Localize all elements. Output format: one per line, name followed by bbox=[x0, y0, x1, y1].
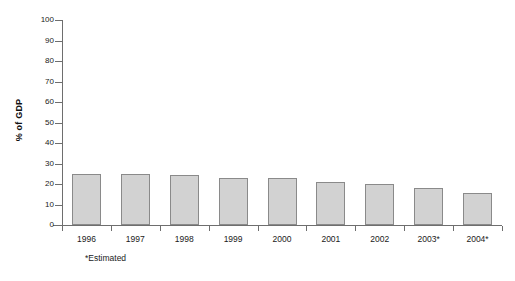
bar-chart: % of GDP 1009080706050403020100 19961997… bbox=[0, 0, 515, 281]
bar bbox=[219, 178, 248, 225]
y-axis-tick-label: 50 bbox=[14, 119, 54, 127]
bar bbox=[414, 188, 443, 225]
y-axis-tick bbox=[55, 205, 62, 206]
x-axis-tick bbox=[160, 226, 161, 231]
y-axis-tick bbox=[55, 164, 62, 165]
bar bbox=[268, 178, 297, 225]
x-axis-tick bbox=[209, 226, 210, 231]
bar bbox=[72, 174, 101, 225]
x-axis-tick bbox=[355, 226, 356, 231]
x-axis-tick bbox=[453, 226, 454, 231]
y-axis-tick-label: 80 bbox=[14, 57, 54, 65]
y-axis-tick-labels: 1009080706050403020100 bbox=[10, 20, 54, 225]
y-axis-tick bbox=[55, 82, 62, 83]
y-axis-line bbox=[62, 20, 63, 225]
x-axis-category-label: 2001 bbox=[306, 234, 355, 244]
bar bbox=[316, 182, 345, 225]
y-axis-tick-label: 20 bbox=[14, 180, 54, 188]
y-axis-tick bbox=[55, 123, 62, 124]
x-axis-category-label: 1997 bbox=[111, 234, 160, 244]
chart-footnote: *Estimated bbox=[85, 253, 126, 263]
x-axis-category-label: 2004* bbox=[453, 234, 502, 244]
x-axis-category-label: 1996 bbox=[62, 234, 111, 244]
bar bbox=[121, 174, 150, 225]
y-axis-tick bbox=[55, 102, 62, 103]
plot-area: 1009080706050403020100 19961997199819992… bbox=[62, 20, 502, 225]
y-axis-tick bbox=[55, 41, 62, 42]
x-axis-category-label: 1999 bbox=[209, 234, 258, 244]
y-axis-tick-label: 70 bbox=[14, 78, 54, 86]
x-axis-tick bbox=[306, 226, 307, 231]
x-axis-category-label: 2003* bbox=[404, 234, 453, 244]
x-axis-tick bbox=[62, 226, 63, 231]
y-axis-tick-label: 0 bbox=[14, 221, 54, 229]
x-axis-tick bbox=[502, 226, 503, 231]
y-axis-tick-label: 40 bbox=[14, 139, 54, 147]
y-axis-tick bbox=[55, 20, 62, 21]
y-axis-tick-label: 90 bbox=[14, 37, 54, 45]
y-axis-tick bbox=[55, 225, 62, 226]
x-axis-tick bbox=[111, 226, 112, 231]
y-axis-tick-label: 10 bbox=[14, 201, 54, 209]
y-axis-tick-label: 100 bbox=[14, 16, 54, 24]
y-axis-tick bbox=[55, 61, 62, 62]
y-axis-tick bbox=[55, 184, 62, 185]
bar bbox=[170, 175, 199, 225]
x-axis-tick bbox=[258, 226, 259, 231]
bar bbox=[463, 193, 492, 225]
x-axis-category-label: 2002 bbox=[355, 234, 404, 244]
y-axis-tick bbox=[55, 143, 62, 144]
x-axis-category-label: 1998 bbox=[160, 234, 209, 244]
x-axis-category-label: 2000 bbox=[258, 234, 307, 244]
x-axis-tick bbox=[404, 226, 405, 231]
bar bbox=[365, 184, 394, 225]
x-axis-line bbox=[53, 225, 502, 226]
y-axis-tick-label: 30 bbox=[14, 160, 54, 168]
y-axis-tick-label: 60 bbox=[14, 98, 54, 106]
